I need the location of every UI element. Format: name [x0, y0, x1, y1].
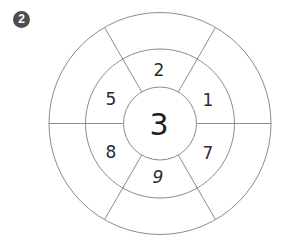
inner-cell-bottom: 9 — [153, 169, 164, 186]
spoke-top-left — [105, 27, 142, 92]
spoke-top-right — [178, 27, 215, 92]
spoke-bottom-right — [178, 155, 215, 220]
center-number: 3 — [149, 110, 168, 140]
inner-cell-bottom-right: 7 — [203, 145, 214, 162]
inner-cell-bottom-left: 8 — [106, 144, 117, 161]
inner-cell-top-left: 5 — [106, 91, 117, 108]
spoke-bottom-left — [105, 155, 142, 220]
number-wheel-diagram — [0, 0, 285, 243]
inner-cell-top-right: 1 — [203, 92, 214, 109]
inner-cell-top: 2 — [154, 62, 165, 79]
